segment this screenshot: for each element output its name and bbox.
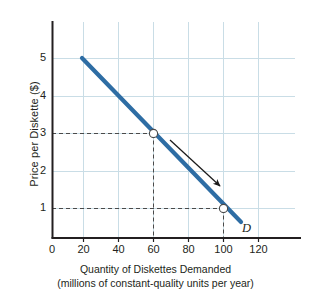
- x-tick-label-40: 40: [104, 243, 134, 255]
- x-tick-label-0: 0: [37, 243, 67, 255]
- y-tick-label-2: 2: [30, 164, 46, 176]
- x-tick-label-80: 80: [174, 243, 204, 255]
- demand-curve-label: D: [242, 221, 251, 236]
- x-axis-title: Quantity of Diskettes Demanded (millions…: [0, 262, 311, 290]
- x-tick-label-120: 120: [244, 243, 274, 255]
- y-tick-label-5: 5: [30, 51, 46, 63]
- guide-lines: [52, 134, 224, 239]
- y-tick-label-1: 1: [30, 201, 46, 213]
- y-tick-label-4: 4: [30, 89, 46, 101]
- point-a-marker[interactable]: [149, 129, 157, 137]
- demand-curve-line[interactable]: [82, 58, 241, 222]
- y-tick-label-3: 3: [30, 126, 46, 138]
- demand-curve-figure: Price per Diskette ($) 5 4 3 2 1 0 20 40…: [0, 0, 311, 306]
- x-axis-title-line2: (millions of constant-quality units per …: [0, 276, 311, 290]
- x-tick-label-20: 20: [69, 243, 99, 255]
- chart-plot-area: [0, 0, 311, 306]
- x-tick-label-100: 100: [209, 243, 239, 255]
- movement-arrow: [170, 140, 220, 186]
- vertical-gridlines: [84, 22, 259, 238]
- x-tick-label-60: 60: [139, 243, 169, 255]
- x-axis-title-line1: Quantity of Diskettes Demanded: [0, 262, 311, 276]
- point-b-marker[interactable]: [219, 204, 227, 212]
